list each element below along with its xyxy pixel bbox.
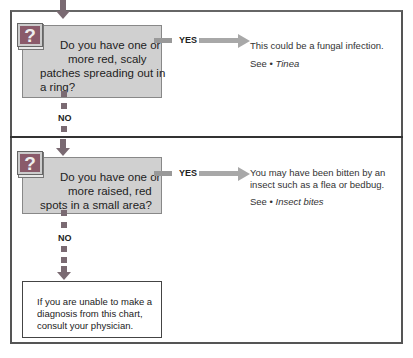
answer-text-2: You may have been bitten by an insect su… xyxy=(250,167,390,208)
no-connector xyxy=(61,126,67,132)
no-connector xyxy=(61,257,67,263)
no-label-2: NO xyxy=(58,233,72,243)
see-link-tinea[interactable]: Tinea xyxy=(276,58,300,69)
section-divider xyxy=(10,136,403,138)
yes-connector-right xyxy=(199,171,239,176)
arrow-right-icon xyxy=(238,34,250,48)
arrow-right-icon xyxy=(238,167,250,181)
arrow-down-icon xyxy=(56,11,70,19)
yes-label-1: YES xyxy=(179,35,197,45)
question-text-2: Do you have one or more raised, red spot… xyxy=(40,170,170,212)
no-connector xyxy=(61,91,67,97)
no-label-1: NO xyxy=(58,113,72,123)
yes-connector-left xyxy=(154,171,172,176)
arrow-down-icon xyxy=(57,272,71,280)
question-mark-icon: ? xyxy=(18,24,42,46)
arrow-down-icon xyxy=(56,148,70,156)
no-connector xyxy=(61,222,67,228)
yes-connector-left xyxy=(154,38,172,43)
see-link-insect-bites[interactable]: Insect bites xyxy=(276,196,324,207)
answer-text-1: This could be a fungal infection. See • … xyxy=(250,40,390,70)
yes-label-2: YES xyxy=(179,168,197,178)
no-connector xyxy=(61,246,67,252)
no-connector xyxy=(61,103,67,109)
no-connector xyxy=(61,210,67,216)
final-advice-text: If you are unable to make a diagnosis fr… xyxy=(37,296,157,332)
question-mark-icon: ? xyxy=(18,152,42,174)
question-text-1: Do you have one or more red, scaly patch… xyxy=(40,38,170,94)
yes-connector-right xyxy=(199,38,239,43)
